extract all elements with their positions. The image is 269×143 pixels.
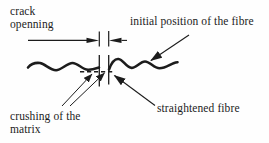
initial-position-arrow (151, 35, 189, 61)
fibre-wave-right (109, 59, 178, 70)
straightened-fibre-label: straightened fibre (157, 102, 240, 115)
crushing-of-matrix-label: crushing of the matrix (10, 110, 80, 135)
dimension-arrowhead-right-icon (109, 38, 122, 43)
fibre-wave-left (28, 63, 99, 70)
straightened-fibre-arrow (115, 76, 156, 106)
initial-position-label: initial position of the fibre (130, 15, 254, 28)
crushing-arrow-right (70, 73, 105, 106)
diagram-stage: crack openning initial position of the f… (0, 0, 269, 143)
dimension-arrowhead-left-icon (87, 38, 100, 43)
crushing-arrow-left (62, 74, 92, 106)
crack-opening-label: crack openning (10, 5, 54, 30)
